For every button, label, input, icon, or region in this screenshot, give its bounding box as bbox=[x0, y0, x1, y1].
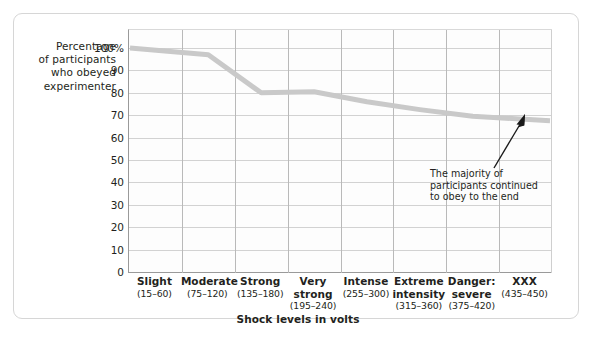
x-tick-label-5: Intense bbox=[340, 275, 393, 288]
x-axis-title: Shock levels in volts bbox=[0, 313, 596, 325]
annotation-line-2: participants continued bbox=[430, 180, 538, 191]
y-tick-80: 80 bbox=[111, 87, 124, 99]
y-tick-50: 50 bbox=[111, 154, 124, 166]
x-tick-range-3: (135–180) bbox=[234, 288, 287, 301]
x-tick-4: Very strong(195–240) bbox=[287, 275, 340, 313]
x-tick-range-4: (195–240) bbox=[287, 300, 340, 313]
x-tick-label-2: Moderate bbox=[181, 275, 234, 288]
x-tick-7: Danger: severe(375–420) bbox=[445, 275, 498, 313]
annotation-line-1: The majority of bbox=[430, 168, 503, 179]
x-tick-2: Moderate(75–120) bbox=[181, 275, 234, 300]
y-tick-100: 100% bbox=[94, 42, 124, 54]
y-tick-60: 60 bbox=[111, 132, 124, 144]
x-tick-range-5: (255–300) bbox=[340, 288, 393, 301]
x-tick-label-6: Extreme intensity bbox=[392, 275, 445, 300]
x-tick-label-4: Very strong bbox=[287, 275, 340, 300]
x-tick-8: XXX(435–450) bbox=[498, 275, 551, 300]
y-axis-title-line-3: who obeyed bbox=[51, 66, 116, 78]
y-tick-20: 20 bbox=[111, 221, 124, 233]
x-tick-label-7: Danger: severe bbox=[445, 275, 498, 300]
y-tick-40: 40 bbox=[111, 176, 124, 188]
annotation-arrow-icon bbox=[488, 112, 534, 170]
y-tick-0: 0 bbox=[117, 266, 124, 278]
annotation-text: The majority of participants continued t… bbox=[430, 168, 558, 203]
x-tick-1: Slight(15–60) bbox=[128, 275, 181, 300]
y-tick-70: 70 bbox=[111, 109, 124, 121]
figure-container: Percentage of participants who obeyed ex… bbox=[0, 0, 596, 341]
x-tick-range-2: (75–120) bbox=[181, 288, 234, 301]
y-tick-90: 90 bbox=[111, 64, 124, 76]
x-tick-label-8: XXX bbox=[498, 275, 551, 288]
y-tick-30: 30 bbox=[111, 199, 124, 211]
x-tick-label-1: Slight bbox=[128, 275, 181, 288]
x-tick-range-1: (15–60) bbox=[128, 288, 181, 301]
annotation-line-3: to obey to the end bbox=[430, 191, 519, 202]
x-tick-label-3: Strong bbox=[234, 275, 287, 288]
x-tick-3: Strong(135–180) bbox=[234, 275, 287, 300]
x-tick-range-6: (315–360) bbox=[392, 300, 445, 313]
x-tick-6: Extreme intensity(315–360) bbox=[392, 275, 445, 313]
x-tick-range-8: (435–450) bbox=[498, 288, 551, 301]
y-axis-title-line-4: experimenter bbox=[44, 80, 116, 92]
y-tick-10: 10 bbox=[111, 244, 124, 256]
x-tick-range-7: (375–420) bbox=[445, 300, 498, 313]
x-tick-5: Intense(255–300) bbox=[340, 275, 393, 300]
y-axis-title-line-2: of participants bbox=[39, 53, 116, 65]
